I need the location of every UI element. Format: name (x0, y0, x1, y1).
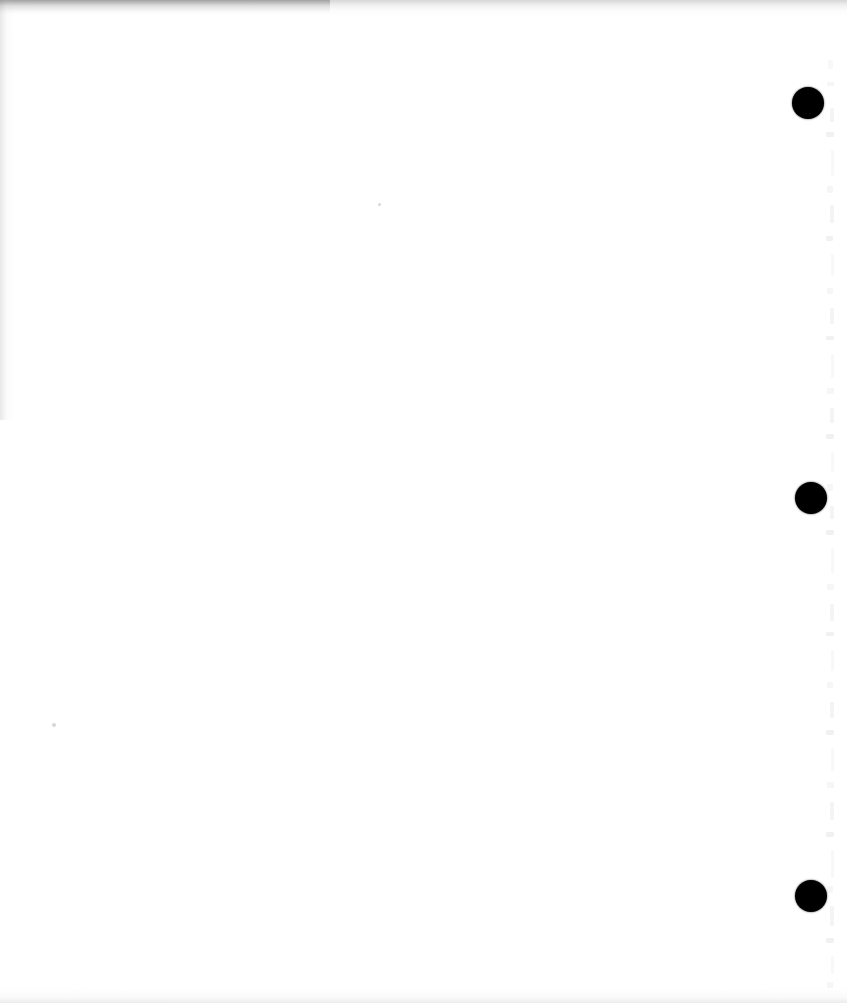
registration-dot-top (792, 87, 824, 119)
registration-dot-middle (795, 482, 827, 514)
paper-surface (0, 0, 847, 1003)
speck-left (52, 723, 56, 727)
registration-dot-bottom (795, 880, 827, 912)
speck-mid (378, 203, 381, 206)
scanned-page (0, 0, 847, 1003)
